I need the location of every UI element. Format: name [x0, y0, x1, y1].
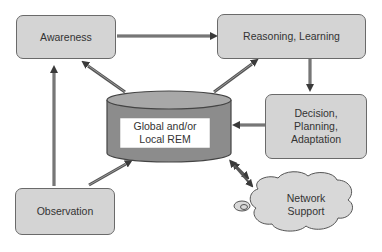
observation-label: Observation — [37, 205, 94, 218]
adaptation-label: Adaptation — [291, 133, 341, 146]
reasoning-learning-node: Reasoning, Learning — [217, 14, 366, 59]
rem-label-line1: Global and/or — [133, 120, 196, 133]
awareness-node: Awareness — [16, 15, 116, 59]
reasoning-learning-label: Reasoning, Learning — [243, 30, 340, 43]
observation-node: Observation — [15, 188, 115, 235]
arrow-observation-to-rem — [89, 161, 131, 185]
decision-label: Decision, — [294, 107, 337, 120]
network-label-line2: Support — [288, 205, 325, 218]
network-support-label: Network Support — [268, 190, 344, 220]
awareness-label: Awareness — [40, 31, 92, 44]
arrow-rem-network-bidirectional — [233, 164, 252, 186]
arrow-rem-to-reasoning — [214, 60, 257, 92]
rem-node-label: Global and/or Local REM — [120, 118, 210, 148]
planning-label: Planning, — [294, 120, 338, 133]
decision-planning-adaptation-node: Decision, Planning, Adaptation — [265, 94, 367, 159]
arrow-rem-to-awareness — [83, 62, 125, 92]
rem-label-line2: Local REM — [139, 133, 190, 146]
network-label-line1: Network — [287, 192, 326, 205]
